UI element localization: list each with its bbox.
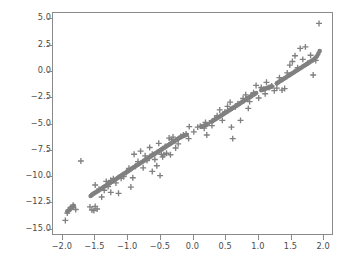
data-point-plus bbox=[302, 44, 308, 50]
data-point-plus bbox=[154, 163, 160, 169]
x-tick-mark bbox=[94, 235, 95, 240]
x-tick-label: 0.0 bbox=[186, 241, 199, 251]
data-point-plus bbox=[78, 158, 84, 164]
data-point-plus bbox=[263, 79, 269, 85]
x-tick-mark bbox=[258, 235, 259, 240]
data-point-plus bbox=[131, 151, 137, 157]
x-tick-mark bbox=[160, 235, 161, 240]
y-tick-label: −7.5 bbox=[31, 144, 51, 154]
x-tick-mark bbox=[127, 235, 128, 240]
data-point-plus bbox=[140, 165, 146, 171]
x-tick-label: 2.0 bbox=[317, 241, 330, 251]
x-tick-label: −1.5 bbox=[84, 241, 104, 251]
data-point-plus bbox=[217, 107, 223, 113]
x-tick-label: −1.0 bbox=[117, 241, 137, 251]
data-point-plus bbox=[253, 82, 259, 88]
data-point-plus bbox=[245, 105, 251, 111]
data-point-plus bbox=[238, 117, 244, 123]
data-point-plus bbox=[130, 175, 136, 181]
plot-area bbox=[52, 12, 333, 235]
data-point-plus bbox=[204, 132, 210, 138]
y-tick-label: 5.0 bbox=[38, 12, 51, 22]
x-tick-mark bbox=[291, 235, 292, 240]
x-tick-mark bbox=[323, 235, 324, 240]
x-tick-label: 1.5 bbox=[284, 241, 297, 251]
series-observed bbox=[62, 20, 322, 223]
data-point-plus bbox=[228, 124, 234, 130]
data-point-plus bbox=[292, 53, 298, 59]
data-point-plus bbox=[186, 124, 192, 130]
data-point-plus bbox=[149, 168, 155, 174]
data-point-plus bbox=[157, 173, 163, 179]
data-point-plus bbox=[308, 52, 314, 58]
data-point-plus bbox=[156, 140, 162, 146]
data-point-plus bbox=[256, 95, 262, 101]
scatter-plot-figure: 5.02.50.0−2.5−5.0−7.5−10.0−12.5−15.0 −2.… bbox=[0, 0, 353, 265]
y-tick-label: −5.0 bbox=[31, 118, 51, 128]
x-tick-mark bbox=[62, 235, 63, 240]
data-point-plus bbox=[108, 189, 114, 195]
scatter-points-layer bbox=[53, 13, 332, 234]
x-tick-label: −2.0 bbox=[52, 241, 72, 251]
y-tick-label: 0.0 bbox=[38, 65, 51, 75]
x-tick-mark bbox=[225, 235, 226, 240]
data-point-plus bbox=[99, 194, 105, 200]
y-tick-label: 2.5 bbox=[38, 39, 51, 49]
data-point-plus bbox=[147, 144, 153, 150]
x-tick-label: 0.5 bbox=[219, 241, 232, 251]
data-point-plus bbox=[128, 184, 134, 190]
data-point-plus bbox=[297, 45, 303, 51]
data-point-plus bbox=[300, 56, 306, 62]
data-point-plus bbox=[230, 136, 236, 142]
data-point-circle bbox=[317, 49, 322, 54]
data-point-plus bbox=[62, 217, 68, 223]
data-point-plus bbox=[310, 72, 316, 78]
x-tick-label: −0.5 bbox=[150, 241, 170, 251]
x-tick-label: 1.0 bbox=[251, 241, 264, 251]
data-point-plus bbox=[138, 148, 144, 154]
x-tick-mark bbox=[193, 235, 194, 240]
y-tick-label: −10.0 bbox=[25, 170, 51, 180]
data-point-plus bbox=[191, 129, 197, 135]
data-point-plus bbox=[116, 190, 122, 196]
y-tick-label: −2.5 bbox=[31, 91, 51, 101]
y-tick-label: −15.0 bbox=[25, 223, 51, 233]
y-tick-label: −12.5 bbox=[25, 196, 51, 206]
data-point-plus bbox=[316, 20, 322, 26]
data-point-plus bbox=[92, 182, 98, 188]
